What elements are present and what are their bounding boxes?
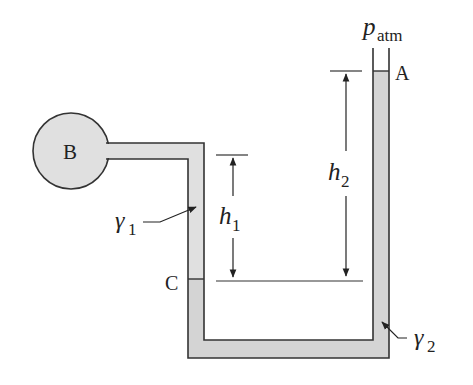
label-gamma1: γ bbox=[115, 207, 125, 233]
label-h2: h bbox=[328, 158, 341, 185]
manometer-diagram: B A C p atm h 1 h 2 γ 1 γ 2 bbox=[0, 0, 473, 385]
label-p-atm-subscript: atm bbox=[377, 26, 403, 45]
label-gamma2: γ bbox=[414, 324, 424, 350]
label-p-atm: p bbox=[361, 13, 376, 40]
label-point-c: C bbox=[165, 272, 178, 294]
label-h1-subscript: 1 bbox=[232, 216, 241, 235]
label-gamma1-subscript: 1 bbox=[128, 220, 137, 239]
label-gamma2-subscript: 2 bbox=[427, 337, 436, 356]
u-tube bbox=[33, 48, 389, 358]
label-h2-subscript: 2 bbox=[341, 172, 350, 191]
label-bulb-b: B bbox=[63, 140, 77, 164]
label-point-a: A bbox=[395, 62, 410, 84]
label-h1: h bbox=[219, 202, 232, 229]
